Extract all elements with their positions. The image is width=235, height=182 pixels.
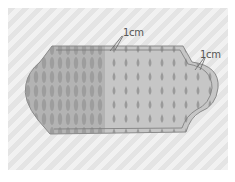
annotation-top-1cm: 1cm [123,27,144,38]
annotation-right-1cm: 1cm [200,49,221,60]
fabric-piece [20,40,225,140]
pattern-piece-illustration [0,0,235,182]
